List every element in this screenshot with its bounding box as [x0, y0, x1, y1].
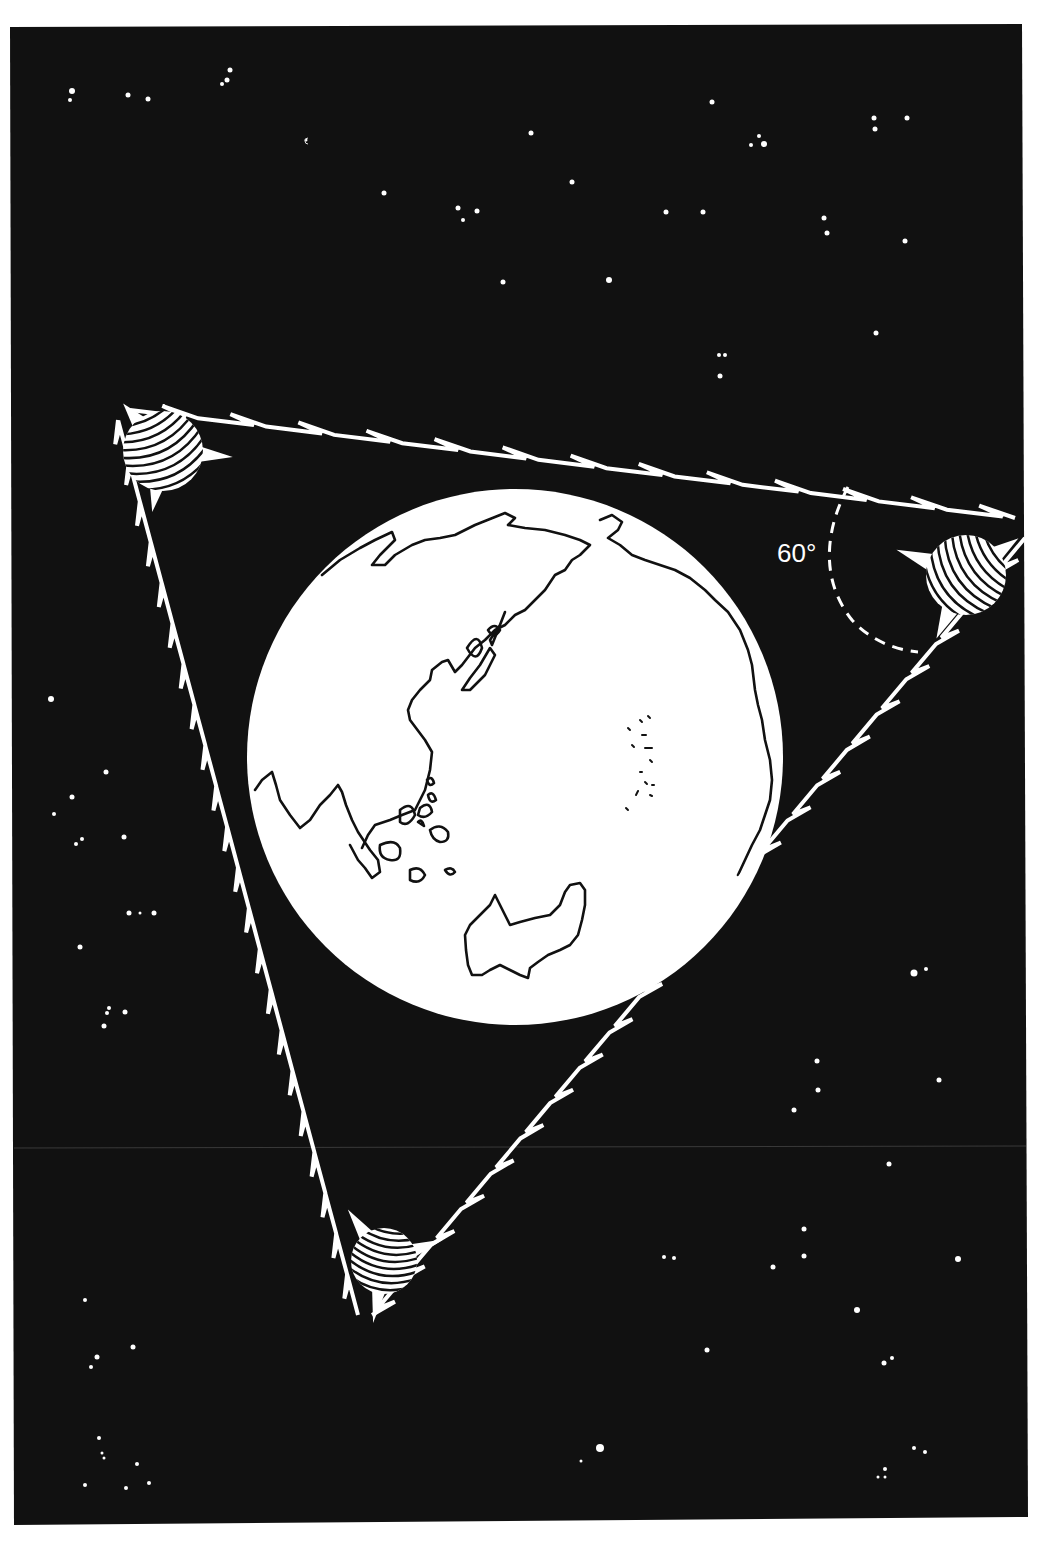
star: [761, 141, 767, 147]
star: [883, 1467, 887, 1471]
star: [69, 88, 75, 94]
star: [103, 1457, 106, 1460]
star: [606, 277, 612, 283]
star: [955, 1256, 961, 1262]
star: [97, 1436, 101, 1440]
star: [802, 1227, 807, 1232]
star: [89, 1365, 93, 1369]
star: [854, 1307, 860, 1313]
star: [475, 209, 480, 214]
star: [123, 1010, 128, 1015]
star: [872, 116, 877, 121]
star: [802, 1254, 807, 1259]
star: [873, 127, 878, 132]
star: [52, 812, 56, 816]
star: [101, 1452, 104, 1455]
star: [107, 1006, 111, 1010]
star: [225, 78, 230, 83]
star: [68, 98, 72, 102]
star: [923, 1450, 927, 1454]
star: [924, 967, 928, 971]
star: [80, 837, 84, 841]
star: [825, 231, 830, 236]
star: [903, 239, 908, 244]
star: [757, 134, 761, 138]
star: [912, 1446, 916, 1450]
star: [911, 970, 918, 977]
star: [135, 1462, 139, 1466]
star: [70, 795, 75, 800]
star: [815, 1059, 820, 1064]
star: [718, 374, 723, 379]
earth: [247, 489, 783, 1025]
star: [701, 210, 706, 215]
star: [146, 97, 151, 102]
star: [905, 116, 910, 121]
star: [672, 1256, 676, 1260]
star: [664, 210, 669, 215]
star: [887, 1162, 892, 1167]
star: [816, 1088, 821, 1093]
star: [74, 842, 78, 846]
star: [456, 206, 461, 211]
star: [937, 1078, 942, 1083]
star: [147, 1481, 151, 1485]
star: [877, 1476, 880, 1479]
star: [139, 912, 142, 915]
star: [771, 1265, 776, 1270]
star: [95, 1355, 100, 1360]
star: [382, 191, 387, 196]
star: [78, 945, 83, 950]
star: [122, 835, 127, 840]
star: [570, 180, 575, 185]
star: [580, 1460, 583, 1463]
star: [890, 1356, 894, 1360]
star: [83, 1298, 87, 1302]
star: [127, 911, 132, 916]
star: [596, 1444, 604, 1452]
angle-label: 60°: [777, 538, 816, 568]
star: [717, 353, 721, 357]
star: [152, 911, 157, 916]
star: [104, 770, 109, 775]
star: [220, 82, 224, 86]
star: [126, 93, 131, 98]
star: [705, 1348, 710, 1353]
star: [124, 1486, 128, 1490]
star: [461, 218, 465, 222]
star: [792, 1108, 797, 1113]
illustration-canvas: 60°: [0, 0, 1057, 1545]
star: [131, 1345, 136, 1350]
star: [822, 216, 827, 221]
star: [749, 143, 753, 147]
star: [228, 68, 233, 73]
star: [882, 1361, 887, 1366]
star: [723, 353, 727, 357]
star: [102, 1024, 107, 1029]
star: [662, 1255, 666, 1259]
star: [529, 131, 534, 136]
star: [501, 280, 506, 285]
star: [884, 1476, 887, 1479]
star: [48, 696, 54, 702]
star: [83, 1483, 87, 1487]
star: [874, 331, 879, 336]
star: [710, 100, 715, 105]
star: [105, 1011, 109, 1015]
